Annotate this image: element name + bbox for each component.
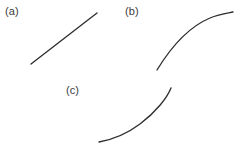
figure-canvas: (a) (b) (c) [0, 0, 235, 155]
panel-label-b: (b) [125, 6, 139, 17]
curve-a-line [31, 13, 97, 64]
panel-label-a: (a) [5, 6, 19, 17]
panel-label-c: (c) [66, 85, 79, 96]
curve-b-concave-down [157, 12, 233, 70]
curve-c-concave-up [99, 88, 171, 142]
curve-layer [0, 0, 235, 155]
